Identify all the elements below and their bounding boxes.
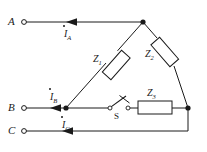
phasor-dot-ic: I: [62, 120, 65, 130]
current-arrow-ib: [50, 104, 61, 112]
switch-label-s: S: [114, 112, 119, 121]
line-z2-lower: [174, 66, 188, 108]
terminal-label-a: A: [8, 16, 15, 27]
impedance-box-z3: [138, 101, 172, 114]
impedance-label-z2: Z2: [145, 49, 154, 62]
line-z1-upper: [118, 22, 144, 51]
line-z2-upper: [143, 22, 157, 38]
junction-top-node: [140, 19, 145, 24]
terminal-b-marker[interactable]: [22, 106, 27, 111]
terminal-label-c: C: [8, 125, 15, 136]
current-arrow-ia: [66, 18, 77, 26]
line-z1-lower: [66, 63, 106, 108]
junction-b-node: [63, 105, 68, 110]
current-label-ia: IA: [64, 29, 71, 42]
current-label-ic: IC: [62, 120, 70, 133]
switch-terminal-right: [126, 106, 130, 110]
terminal-a-marker[interactable]: [22, 20, 27, 25]
current-label-ib: IB: [50, 92, 57, 105]
impedance-box-z1: [102, 50, 130, 79]
terminal-label-b: B: [8, 102, 15, 113]
junction-right-node: [185, 105, 190, 110]
impedance-label-z1: Z1: [93, 54, 102, 67]
phasor-dot-ia: I: [64, 29, 67, 39]
switch-blade[interactable]: [111, 96, 126, 107]
terminal-c-marker[interactable]: [22, 129, 27, 134]
impedance-label-z3: Z3: [147, 88, 156, 101]
circuit-schematic: [0, 0, 207, 152]
impedance-box-z2: [151, 37, 179, 66]
circuit-diagram-canvas: A B C IA IB IC Z1 Z2 Z3 S: [0, 0, 207, 152]
phasor-dot-ib: I: [50, 92, 53, 102]
